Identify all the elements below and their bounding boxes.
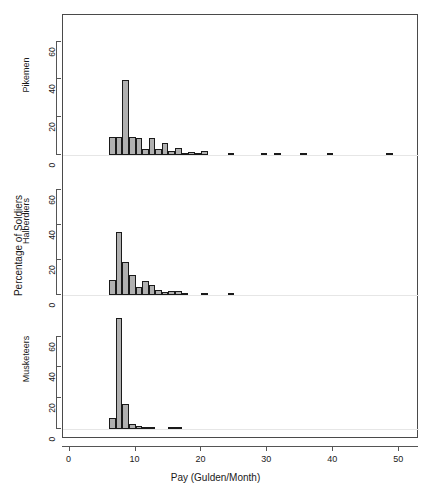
baseline-musketeers xyxy=(63,429,419,430)
histogram-bar xyxy=(116,137,123,155)
y-tick-label: 60 xyxy=(47,40,57,64)
bars-pikemen xyxy=(63,15,419,165)
bars-halberdiers xyxy=(63,165,419,305)
x-axis-label: Pay (Gulden/Month) xyxy=(0,472,431,483)
y-tick-label: 40 xyxy=(47,365,57,389)
y-tick-label: 20 xyxy=(47,258,57,282)
bars-musketeers xyxy=(63,305,419,439)
panel-pikemen xyxy=(63,15,419,165)
histogram-bar xyxy=(109,137,116,155)
chart-figure: 0204060Pikemen0204060Halberdiers0204060M… xyxy=(0,0,431,497)
panel-musketeers xyxy=(63,305,419,439)
y-tick-label: 0 xyxy=(47,293,57,317)
histogram-bar xyxy=(116,318,123,429)
y-axis-label: Percentage of Soldiers xyxy=(13,176,24,316)
histogram-bar xyxy=(136,287,143,295)
histogram-bar xyxy=(129,275,136,295)
histogram-bar xyxy=(122,80,129,155)
histogram-bar xyxy=(129,137,136,156)
x-tick-label: 10 xyxy=(120,454,150,464)
histogram-bar xyxy=(136,138,143,155)
y-tick-label: 60 xyxy=(47,188,57,212)
panel-halberdiers xyxy=(63,165,419,305)
baseline-halberdiers xyxy=(63,295,419,296)
panel-title-musketeers: Musketeers xyxy=(21,314,31,404)
x-tick-label: 20 xyxy=(185,454,215,464)
y-tick-label: 20 xyxy=(47,115,57,139)
y-tick-label: 20 xyxy=(47,396,57,420)
histogram-bar xyxy=(109,280,116,295)
panel-title-pikemen: Pikemen xyxy=(21,30,31,120)
histogram-bar xyxy=(109,418,116,429)
plot-area xyxy=(62,14,418,438)
y-tick-label: 40 xyxy=(47,223,57,247)
x-tick-label: 40 xyxy=(317,454,347,464)
histogram-bar xyxy=(149,285,156,295)
baseline-pikemen xyxy=(63,155,419,156)
histogram-bar xyxy=(122,404,129,429)
x-axis-line xyxy=(62,446,418,447)
histogram-bar xyxy=(116,232,123,295)
x-tick-label: 50 xyxy=(383,454,413,464)
histogram-bar xyxy=(162,143,169,155)
y-tick-label: 0 xyxy=(47,427,57,451)
x-tick-label: 0 xyxy=(54,454,84,464)
x-tick-label: 30 xyxy=(251,454,281,464)
y-tick-label: 0 xyxy=(47,153,57,177)
histogram-bar xyxy=(122,262,129,295)
y-tick-label: 60 xyxy=(47,335,57,359)
y-tick-label: 40 xyxy=(47,77,57,101)
histogram-bar xyxy=(142,281,149,295)
histogram-bar xyxy=(175,148,182,155)
histogram-bar xyxy=(149,138,156,155)
